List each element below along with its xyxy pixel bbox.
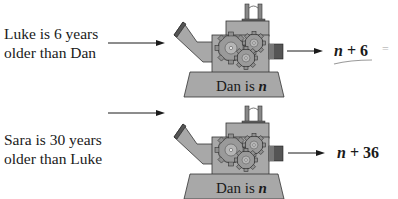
function-machine-diagram: Dan is n n + 6 = Dan is n n + 36 <box>0 0 398 199</box>
arrow-head-icon <box>156 40 165 46</box>
machine-label-row1: Dan is n <box>216 78 267 94</box>
function-machine-row2: Dan is n n + 36 <box>108 106 379 199</box>
machine-label-row2: Dan is n <box>216 180 267 196</box>
arrow-head-icon <box>156 110 165 116</box>
output-expression-row1: n + 6 <box>334 42 368 59</box>
arrow-head-icon <box>316 150 325 156</box>
output-expression-row2: n + 36 <box>337 144 379 161</box>
arrow-head-icon <box>314 48 323 54</box>
pencil-underline <box>334 60 372 64</box>
function-machine-row1: Dan is n n + 6 = <box>108 4 389 97</box>
pencil-annotation: = <box>382 42 389 56</box>
